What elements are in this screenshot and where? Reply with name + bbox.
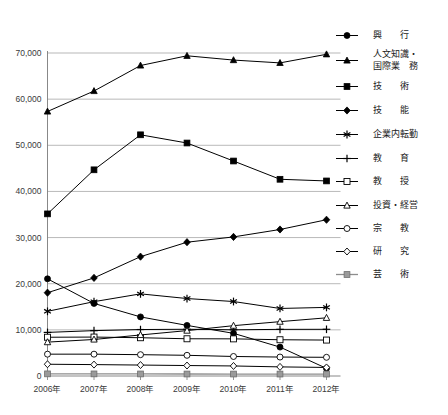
y-axis-tick-labels: 010,00020,00030,00040,00050,00060,00070,… (16, 48, 42, 381)
data-point (45, 351, 51, 357)
legend-label: 国際業 務 (373, 60, 418, 71)
line-chart: 010,00020,00030,00040,00050,00060,00070,… (0, 0, 448, 415)
series-diamond-filled (44, 216, 330, 296)
legend-label: 人文知識・ (373, 48, 418, 59)
data-point (231, 353, 237, 359)
legend-item[interactable]: 人文知識・国際業 務 (336, 48, 418, 71)
y-axis-tick-label: 30,000 (16, 233, 42, 243)
series-triangle-filled (44, 51, 329, 114)
data-point (277, 371, 283, 377)
data-point (138, 352, 144, 358)
legend-item[interactable]: 教 授 (336, 175, 409, 186)
data-point (231, 371, 237, 377)
x-axis-tick-label: 2011年 (266, 384, 293, 394)
legend-label: 研 究 (373, 245, 409, 256)
data-point (44, 108, 50, 114)
data-point (91, 351, 97, 357)
data-point (231, 336, 237, 342)
x-axis-tick-label: 2007年 (80, 384, 108, 394)
legend-item[interactable]: 技 術 (336, 80, 409, 91)
legend-item[interactable]: 宗 教 (336, 222, 409, 233)
data-point (277, 363, 283, 370)
data-point (277, 226, 284, 233)
data-point (324, 178, 330, 184)
series-line (48, 135, 327, 214)
legend-label: 技 術 (373, 80, 409, 91)
y-axis-tick-label: 40,000 (16, 186, 42, 196)
data-point (323, 216, 330, 223)
data-point (91, 88, 97, 94)
data-point (323, 314, 329, 320)
y-axis-tick-label: 10,000 (16, 325, 42, 335)
legend-marker (344, 33, 350, 39)
data-point (230, 233, 237, 240)
data-point (45, 371, 51, 377)
y-axis-tick-label: 20,000 (16, 279, 42, 289)
legend-label: 技 能 (373, 104, 409, 115)
legend-item[interactable]: 技 能 (336, 104, 409, 115)
data-point (45, 211, 51, 217)
x-axis-tick-label: 2012年 (313, 384, 341, 394)
legend-marker (344, 179, 350, 185)
y-axis-tick-label: 70,000 (16, 48, 42, 58)
data-point (277, 337, 283, 343)
data-point (323, 51, 329, 57)
data-point (230, 362, 236, 369)
data-point (277, 344, 283, 350)
data-point (138, 132, 144, 138)
legend-marker (344, 226, 350, 232)
x-axis-tick-label: 2009年 (173, 384, 201, 394)
data-point (138, 371, 144, 377)
series-line (48, 220, 327, 293)
legend-label: 教 授 (373, 175, 409, 186)
legend-marker (344, 84, 350, 90)
legend-marker (344, 248, 350, 255)
data-point (231, 158, 237, 164)
series-diamond-open (44, 361, 329, 371)
legend-label: 企業内転勤 (373, 128, 418, 139)
legend: 興 行人文知識・国際業 務技 術技 能企業内転勤教 育教 授投資・経営宗 教研 … (336, 29, 418, 279)
data-point (91, 361, 97, 368)
series-asterisk (44, 290, 330, 315)
data-point (184, 336, 190, 342)
series-circle-open (45, 351, 330, 360)
series-line (48, 54, 327, 111)
y-axis-tick-label: 0 (37, 371, 42, 381)
data-point (184, 352, 190, 358)
data-point (91, 274, 98, 281)
series-square-filled (45, 132, 330, 217)
y-axis-tick-label: 60,000 (16, 94, 42, 104)
legend-label: 興 行 (373, 29, 409, 40)
data-point (44, 289, 51, 296)
data-series (44, 51, 331, 377)
data-point (137, 362, 143, 369)
x-axis-tick-label: 2006年 (34, 384, 62, 394)
legend-marker (344, 272, 350, 278)
y-axis-tick-label: 50,000 (16, 140, 42, 150)
x-axis-tick-label: 2008年 (127, 384, 155, 394)
data-point (324, 337, 330, 343)
legend-item[interactable]: 興 行 (336, 29, 409, 40)
data-point (324, 354, 330, 360)
legend-item[interactable]: 投資・経営 (336, 199, 418, 210)
data-point (44, 361, 50, 368)
chart-container: 010,00020,00030,00040,00050,00060,00070,… (0, 0, 448, 415)
legend-marker (344, 107, 351, 114)
legend-item[interactable]: 教 育 (336, 152, 409, 163)
data-point (184, 239, 191, 246)
legend-item[interactable]: 企業内転勤 (336, 128, 418, 139)
legend-label: 芸 術 (373, 268, 409, 279)
legend-label: 宗 教 (373, 222, 409, 233)
data-point (184, 371, 190, 377)
legend-label: 教 育 (373, 152, 409, 163)
data-point (324, 371, 330, 377)
legend-item[interactable]: 芸 術 (336, 268, 409, 279)
gridlines (48, 53, 341, 330)
data-point (184, 362, 190, 369)
legend-item[interactable]: 研 究 (336, 245, 409, 256)
x-axis-tick-labels: 2006年2007年2008年2009年2010年2011年2012年 (34, 384, 341, 394)
data-point (277, 354, 283, 360)
data-point (137, 253, 144, 260)
data-point (91, 167, 97, 173)
data-point (277, 176, 283, 182)
